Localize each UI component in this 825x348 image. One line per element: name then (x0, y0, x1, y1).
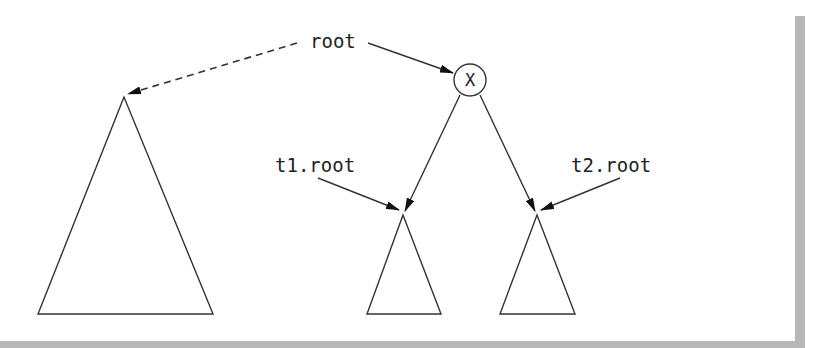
root-to-x-arrow (368, 43, 453, 73)
old-root-dashed-arrow (128, 43, 297, 94)
t1-root-arrow (318, 178, 399, 210)
node-x-label: X (465, 70, 476, 90)
x-to-t2-arrow (480, 95, 535, 211)
t2-root-label: t2.root (571, 154, 651, 176)
x-to-t1-arrow (405, 95, 460, 211)
t2-triangle (500, 215, 575, 314)
root-label: root (310, 30, 356, 52)
t2-root-arrow (541, 178, 620, 210)
node-x: X (454, 64, 486, 96)
frame-right-border (795, 16, 805, 348)
tree-merge-diagram: root X t1.root t2.root (0, 0, 825, 348)
t1-root-label: t1.root (275, 154, 355, 176)
t1-triangle (367, 215, 441, 314)
frame-bottom-border (0, 341, 805, 348)
old-tree-triangle (38, 97, 213, 314)
